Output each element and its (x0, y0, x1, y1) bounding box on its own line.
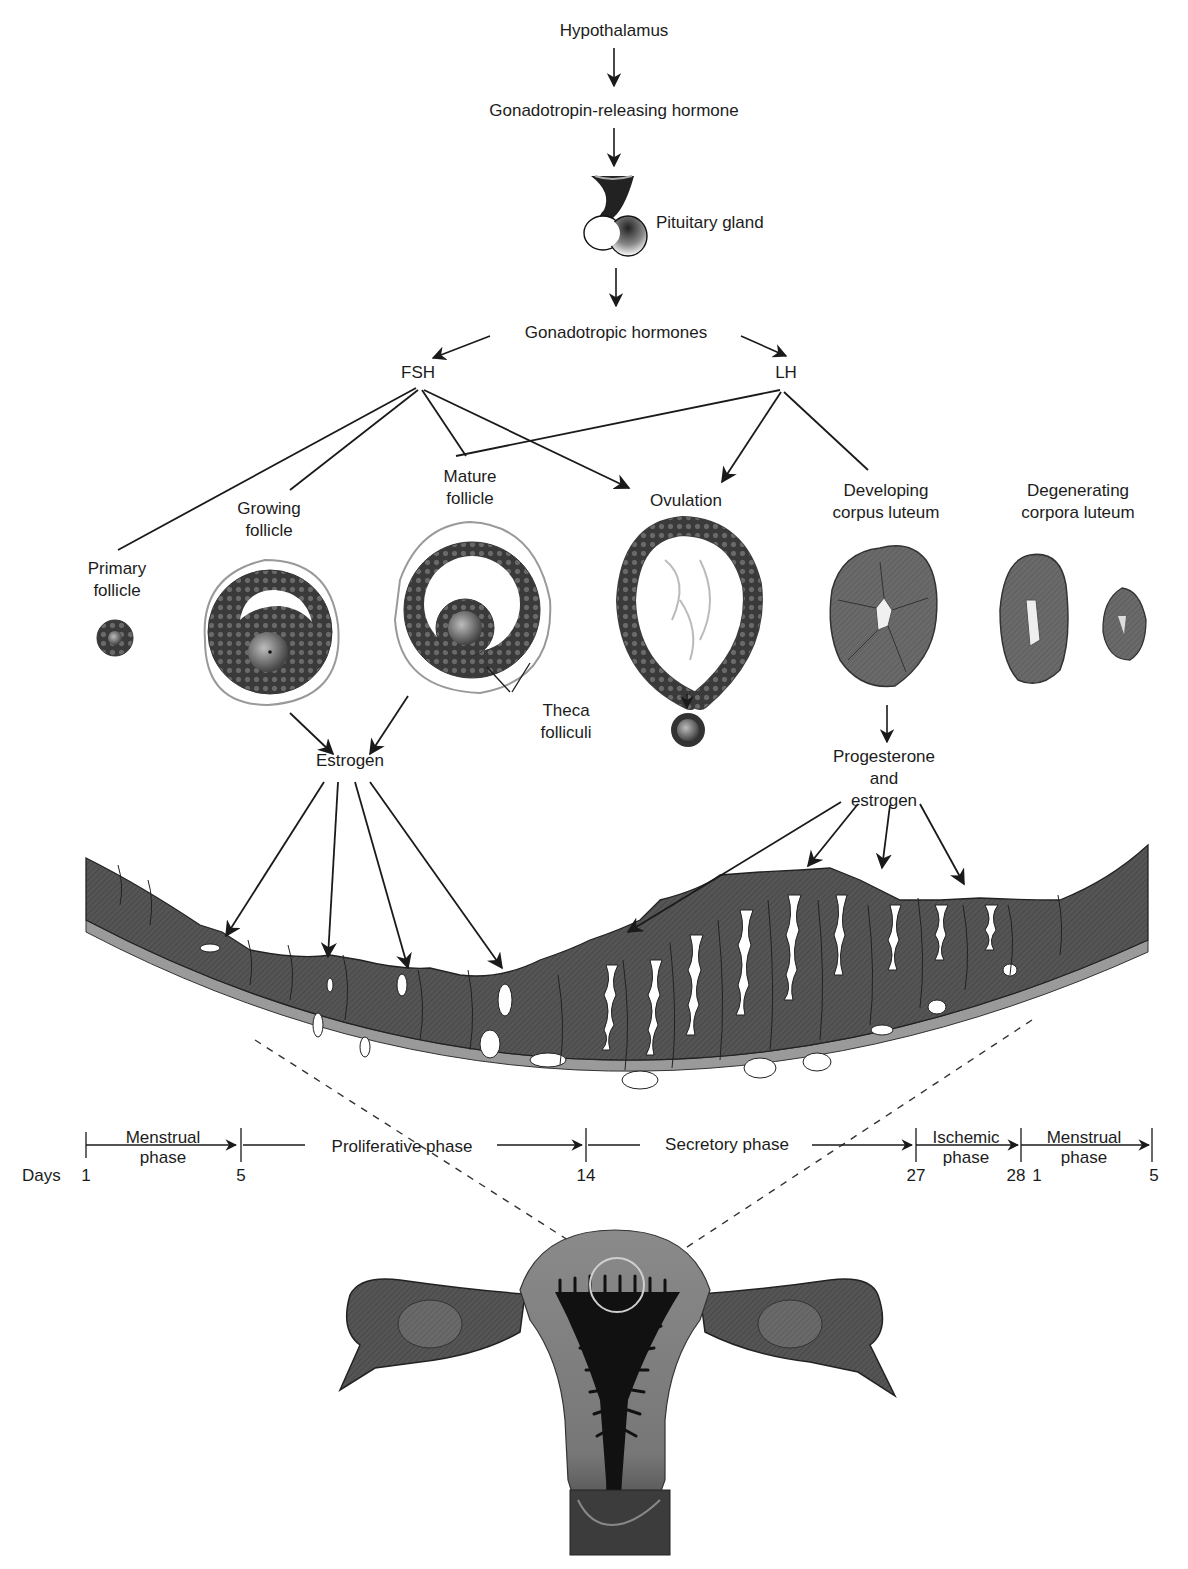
phase-secretory: Secretory phase (665, 1134, 789, 1156)
ovulation-icon (626, 526, 753, 747)
label-pituitary: Pituitary gland (656, 212, 764, 234)
day-tick: 27 (907, 1166, 926, 1186)
estrogen-endometrium-arrows (226, 782, 502, 968)
label-developing-corpus-luteum: Developing corpus luteum (833, 480, 940, 524)
day-tick: 1 (1032, 1166, 1041, 1186)
phase-proliferative: Proliferative phase (332, 1136, 473, 1158)
label-gnrh: Gonadotropin-releasing hormone (489, 100, 739, 122)
phase-menstrual-1: Menstrual phase (126, 1128, 201, 1168)
day-tick: 1 (81, 1166, 90, 1186)
label-hypothalamus: Hypothalamus (560, 20, 669, 42)
label-theca-folliculi: Theca folliculi (540, 700, 591, 744)
label-degenerating-corpora-luteum: Degenerating corpora luteum (1021, 480, 1134, 524)
label-fsh: FSH (401, 362, 435, 384)
label-growing-follicle: Growing follicle (237, 498, 300, 542)
label-primary-follicle: Primary follicle (88, 558, 147, 602)
label-lh: LH (775, 362, 797, 384)
phase-ischemic: Ischemic phase (932, 1128, 999, 1168)
day-tick: 14 (577, 1166, 596, 1186)
mature-follicle-icon (395, 522, 550, 693)
diagram-canvas (0, 0, 1188, 1569)
primary-follicle-icon (97, 620, 133, 656)
day-tick: 5 (236, 1166, 245, 1186)
day-tick: 5 (1149, 1166, 1158, 1186)
label-gonadotropic-hormones: Gonadotropic hormones (525, 322, 707, 344)
phase-menstrual-2: Menstrual phase (1047, 1128, 1122, 1168)
label-estrogen: Estrogen (316, 750, 384, 772)
label-ovulation: Ovulation (650, 490, 722, 512)
endometrium-section (86, 845, 1148, 1089)
developing-corpus-luteum-icon (830, 546, 937, 687)
degenerating-corpora-luteum-icon (1000, 554, 1146, 683)
growing-follicle-icon (205, 560, 339, 705)
days-label: Days (22, 1166, 61, 1186)
clipped-caption-area (0, 1562, 1188, 1569)
label-mature-follicle: Mature follicle (444, 466, 497, 510)
pituitary-gland-icon (584, 176, 647, 256)
uterus-illustration (340, 1230, 895, 1555)
follicle-estrogen-arrows (290, 696, 408, 754)
label-progesterone-estrogen: Progesterone and estrogen (833, 746, 935, 812)
day-tick: 28 (1007, 1166, 1026, 1186)
